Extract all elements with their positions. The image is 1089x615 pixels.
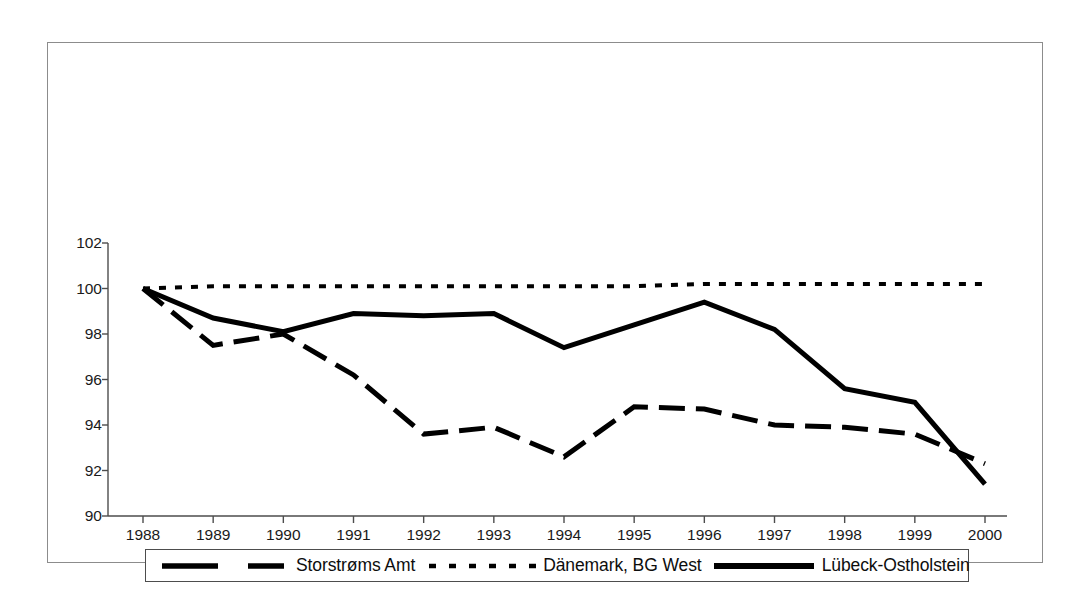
legend-swatch-solid (710, 559, 822, 573)
legend-entry-danemark-bg-west: Dänemark, BG West (425, 555, 701, 576)
x-tick-label-2000: 2000 (968, 526, 1002, 544)
figure-frame (47, 42, 1043, 563)
y-tick-label-92: 92 (60, 462, 102, 480)
legend-label-danemark-bg-west: Dänemark, BG West (543, 555, 701, 576)
x-tick-label-1999: 1999 (898, 526, 932, 544)
legend-label-storstroms-amt: Storstrøms Amt (296, 555, 415, 576)
x-tick-label-1998: 1998 (827, 526, 861, 544)
x-tick-label-1994: 1994 (547, 526, 581, 544)
y-tick-label-102: 102 (60, 234, 102, 252)
legend-label-lubeck-ostholstein: Lübeck-Ostholstein (822, 555, 970, 576)
x-tick-label-1989: 1989 (196, 526, 230, 544)
x-tick-label-1997: 1997 (757, 526, 791, 544)
legend-swatch-dotted (425, 559, 543, 573)
x-tick-label-1996: 1996 (687, 526, 721, 544)
legend-entry-lubeck-ostholstein: Lübeck-Ostholstein (710, 555, 970, 576)
x-tick-label-1988: 1988 (126, 526, 160, 544)
x-tick-label-1995: 1995 (617, 526, 651, 544)
chart-legend: Storstrøms Amt Dänemark, BG West Lübeck-… (145, 549, 969, 582)
legend-entry-storstroms-amt: Storstrøms Amt (160, 555, 415, 576)
y-tick-label-94: 94 (60, 416, 102, 434)
chart-page: 9092949698100102 19881989199019911992199… (0, 0, 1089, 615)
y-tick-label-90: 90 (60, 507, 102, 525)
y-tick-label-100: 100 (60, 280, 102, 298)
x-tick-label-1993: 1993 (477, 526, 511, 544)
x-tick-label-1991: 1991 (336, 526, 370, 544)
legend-swatch-dashed (160, 559, 296, 573)
x-tick-label-1990: 1990 (266, 526, 300, 544)
x-tick-label-1992: 1992 (406, 526, 440, 544)
y-tick-label-98: 98 (60, 325, 102, 343)
y-tick-label-96: 96 (60, 371, 102, 389)
